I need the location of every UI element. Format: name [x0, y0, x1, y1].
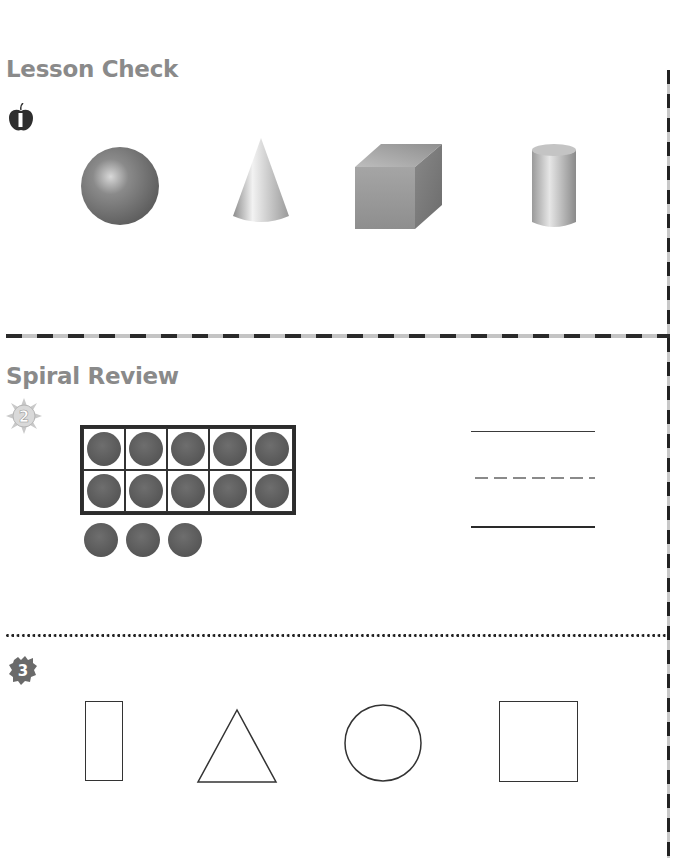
counter [87, 432, 121, 466]
shape-option-cylinder[interactable] [530, 142, 578, 236]
svg-text:3: 3 [18, 662, 28, 680]
shape-option-cone[interactable] [230, 136, 292, 232]
writing-line-middle-dashed [475, 477, 595, 479]
counter [171, 432, 205, 466]
ten-frame-cell [125, 470, 167, 512]
ten-frame-cell [209, 428, 251, 470]
counter [213, 432, 247, 466]
page-right-border [667, 70, 670, 338]
shape-option-cube[interactable] [354, 143, 444, 235]
ten-frame-cell [251, 470, 293, 512]
counter [255, 432, 289, 466]
page-right-border [667, 338, 670, 858]
counter [129, 432, 163, 466]
counter [213, 474, 247, 508]
shape-option-sphere[interactable] [80, 145, 160, 231]
section-title-spiral-review: Spiral Review [6, 363, 179, 389]
ten-frame-cell [167, 470, 209, 512]
leaf-badge-icon: 3 3 [8, 654, 38, 686]
section-title-lesson-check: Lesson Check [6, 56, 178, 82]
ten-frame-cell [251, 428, 293, 470]
ten-frame-cell [83, 428, 125, 470]
ten-frame-cell [83, 470, 125, 512]
section-divider-dashed [6, 334, 670, 338]
problem-divider-dotted [6, 634, 670, 637]
apple-icon: 1 [6, 103, 36, 133]
ten-frame-cell [209, 470, 251, 512]
counter [171, 474, 205, 508]
shape-option-square[interactable] [499, 701, 578, 782]
ten-frame-cell [125, 428, 167, 470]
counter [87, 474, 121, 508]
counter [84, 523, 118, 557]
extra-counters [84, 523, 202, 557]
ten-frame-cell [167, 428, 209, 470]
shape-option-triangle[interactable] [196, 708, 278, 788]
svg-text:2: 2 [19, 408, 29, 426]
writing-line-top [471, 431, 595, 432]
counter [168, 523, 202, 557]
counter [255, 474, 289, 508]
shape-option-circle[interactable] [343, 703, 423, 787]
counter [129, 474, 163, 508]
sun-icon: 2 2 [6, 398, 42, 434]
counter [126, 523, 160, 557]
writing-line-bottom [471, 526, 595, 528]
ten-frame [80, 425, 296, 515]
shape-option-rectangle[interactable] [85, 701, 123, 781]
